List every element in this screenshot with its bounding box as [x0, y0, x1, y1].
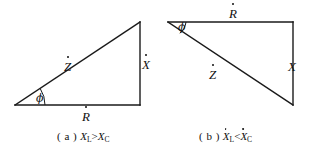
- label-b-angle: ϕ: [178, 22, 186, 33]
- label-a-horizontal-text: R: [82, 109, 90, 124]
- label-b-vertical-text: X: [288, 60, 296, 73]
- triangle-a-hypotenuse: [15, 22, 140, 105]
- label-a-vertical-text: X: [142, 57, 150, 72]
- overdot-icon: [225, 128, 227, 130]
- caption-b-tag: ( b ): [199, 130, 220, 142]
- caption-a-right-var: X: [98, 130, 105, 142]
- overdot-icon: [67, 56, 69, 58]
- label-a-vertical: X: [142, 56, 150, 72]
- label-b-angle-text: ϕ: [178, 21, 186, 34]
- overdot-icon: [232, 3, 234, 5]
- triangle-a: [15, 22, 140, 105]
- caption-a-left-sub: L: [87, 135, 92, 144]
- caption-a-left-var: X: [80, 130, 87, 142]
- caption-b-expr: XL<XC: [223, 130, 252, 142]
- caption-b-left-var: X: [223, 130, 230, 142]
- caption-a-right-sub: C: [105, 135, 110, 144]
- label-b-hypotenuse-text: Z: [209, 67, 216, 82]
- overdot-icon: [212, 64, 214, 66]
- figure-root: Z X R ϕ R X Z ϕ ( a )XL>XC ( b )XL<XC: [0, 0, 309, 153]
- diagram-canvas: [0, 0, 309, 153]
- caption-b-right-sub: C: [247, 135, 252, 144]
- triangle-b: [168, 22, 293, 105]
- overdot-icon: [85, 106, 87, 108]
- caption-b: ( b )XL<XC: [199, 131, 252, 142]
- label-a-angle-text: ϕ: [36, 92, 44, 105]
- label-b-vertical: X: [288, 58, 296, 74]
- caption-b-left-sub: L: [230, 135, 235, 144]
- label-a-hypotenuse: Z: [64, 58, 71, 74]
- label-a-angle: ϕ: [36, 93, 44, 104]
- label-a-hypotenuse-text: Z: [64, 59, 71, 74]
- overdot-icon: [242, 128, 244, 130]
- caption-a: ( a )XL>XC: [57, 131, 110, 142]
- label-b-horizontal: R: [229, 5, 237, 21]
- triangle-b-hypotenuse: [168, 22, 293, 105]
- overdot-icon: [145, 54, 147, 56]
- label-a-horizontal: R: [82, 108, 90, 124]
- label-b-horizontal-text: R: [229, 6, 237, 21]
- caption-a-tag: ( a ): [57, 130, 77, 142]
- caption-a-expr: XL>XC: [80, 130, 109, 142]
- label-b-hypotenuse: Z: [209, 66, 216, 82]
